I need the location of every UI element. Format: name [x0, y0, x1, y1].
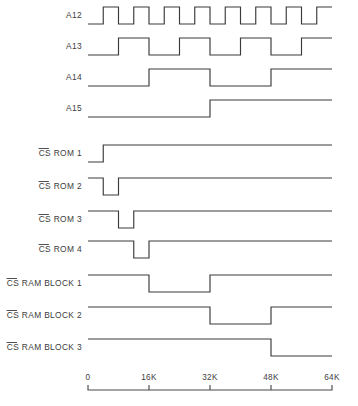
signal-label-a15: A15: [66, 103, 82, 113]
axis-tick-label-16K: 16K: [141, 373, 157, 382]
waveform-cs-ram-block-2: [88, 307, 332, 324]
signal-label-a14: A14: [66, 72, 82, 82]
signal-label-a13: A13: [66, 41, 82, 51]
timing-diagram-canvas: A12A13A14A15CS ROM 1CS ROM 2CS ROM 3CS R…: [0, 0, 358, 406]
signal-label-cs-rom-2: CS ROM 2: [39, 181, 82, 191]
waveform-a12: [88, 7, 332, 24]
signal-label-cs-rom-3: CS ROM 3: [39, 214, 82, 224]
axis-tick-label-48K: 48K: [263, 373, 279, 382]
signal-label-cs-ram-block-3: CS RAM BLOCK 3: [7, 342, 82, 352]
waveform-cs-ram-block-1: [88, 275, 332, 292]
signal-label-cs-ram-block-2: CS RAM BLOCK 2: [7, 310, 82, 320]
waveform-cs-ram-block-3: [88, 339, 332, 356]
signal-label-a12: A12: [66, 10, 82, 20]
waveform-a14: [88, 69, 332, 86]
waveform-cs-rom-3: [88, 211, 332, 228]
waveform-cs-rom-2: [88, 178, 332, 195]
timing-diagram: A12A13A14A15CS ROM 1CS ROM 2CS ROM 3CS R…: [0, 0, 358, 406]
axis-tick-label-64K: 64K: [324, 373, 340, 382]
address-axis-group: 016K32K48K64K: [86, 373, 340, 390]
signal-label-cs-ram-block-1: CS RAM BLOCK 1: [7, 278, 82, 288]
waveform-a15: [88, 100, 332, 117]
signal-labels-group: A12A13A14A15CS ROM 1CS ROM 2CS ROM 3CS R…: [7, 10, 82, 352]
waveforms-group: [88, 7, 332, 356]
waveform-a13: [88, 38, 332, 55]
axis-tick-label-32K: 32K: [202, 373, 218, 382]
axis-tick-label-0: 0: [86, 373, 91, 382]
signal-label-cs-rom-1: CS ROM 1: [39, 148, 82, 158]
waveform-cs-rom-4: [88, 241, 332, 258]
signal-label-cs-rom-4: CS ROM 4: [39, 244, 82, 254]
waveform-cs-rom-1: [88, 145, 332, 162]
